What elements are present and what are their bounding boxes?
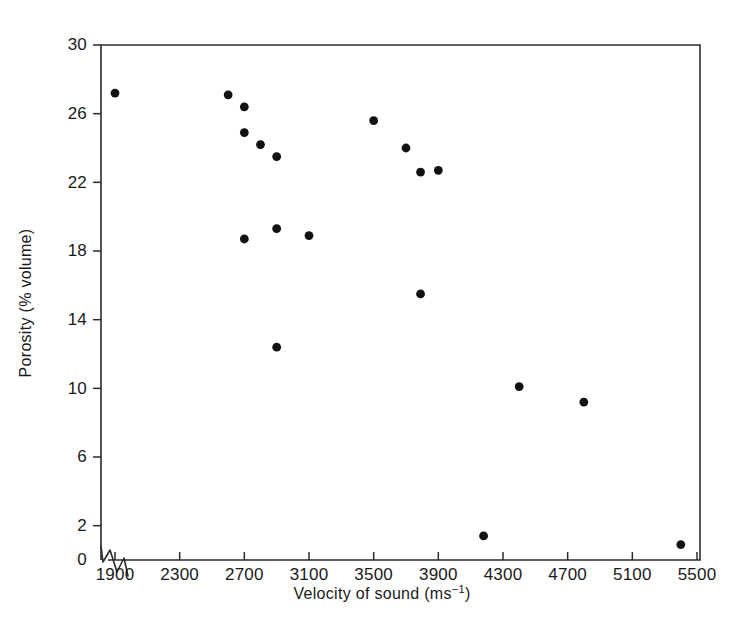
- data-point: [416, 290, 425, 299]
- x-tick-label: 5100: [613, 565, 652, 584]
- data-point: [272, 343, 281, 352]
- y-tick-label: 26: [68, 104, 87, 123]
- x-axis-tick-labels: 1900230027003100350039004300470051005500: [96, 565, 717, 584]
- plot-frame: [101, 45, 700, 560]
- data-point: [240, 128, 249, 137]
- x-axis-title-group: Velocity of sound (ms−1): [293, 583, 470, 602]
- y-tick-label: 18: [68, 241, 87, 260]
- y-tick-label: 14: [68, 310, 87, 329]
- scatter-plot-figure: 026101418222630 190023002700310035003900…: [0, 0, 743, 627]
- y-tick-label: 0: [77, 550, 87, 569]
- data-point: [479, 532, 488, 541]
- x-tick-label: 5500: [678, 565, 717, 584]
- y-tick-label: 6: [77, 447, 87, 466]
- y-axis-ticks: [93, 45, 101, 526]
- x-tick-label: 2300: [160, 565, 199, 584]
- data-point: [305, 231, 314, 240]
- axis-frame: [101, 45, 700, 560]
- y-axis-title-group: Porosity (% volume): [17, 229, 34, 378]
- plot-canvas: 026101418222630 190023002700310035003900…: [0, 0, 743, 627]
- data-point: [434, 166, 443, 175]
- x-tick-label: 2700: [225, 565, 264, 584]
- data-points-layer: [111, 89, 686, 549]
- y-tick-label: 10: [68, 379, 87, 398]
- data-point: [579, 398, 588, 407]
- data-point: [111, 89, 120, 98]
- data-point: [240, 102, 249, 111]
- x-tick-label: 3100: [290, 565, 329, 584]
- data-point: [515, 382, 524, 391]
- data-point: [676, 540, 685, 549]
- y-axis-tick-labels: 026101418222630: [68, 35, 87, 569]
- x-tick-label: 3900: [419, 565, 458, 584]
- data-point: [256, 140, 265, 149]
- x-tick-label: 3500: [354, 565, 393, 584]
- data-point: [224, 90, 233, 99]
- data-point: [402, 144, 411, 153]
- y-axis-title: Porosity (% volume): [17, 229, 34, 378]
- data-point: [416, 168, 425, 177]
- x-tick-label: 1900: [96, 565, 135, 584]
- data-point: [240, 235, 249, 244]
- data-point: [272, 224, 281, 233]
- x-axis-ticks: [115, 552, 697, 560]
- y-tick-label: 30: [68, 35, 87, 54]
- y-tick-label: 2: [77, 516, 87, 535]
- x-tick-label: 4700: [548, 565, 587, 584]
- data-point: [272, 152, 281, 161]
- y-tick-label: 22: [68, 173, 87, 192]
- x-tick-label: 4300: [484, 565, 523, 584]
- x-axis-title: Velocity of sound (ms−1): [293, 583, 470, 602]
- data-point: [369, 116, 378, 125]
